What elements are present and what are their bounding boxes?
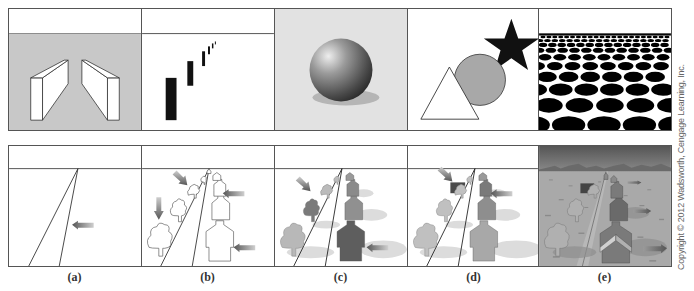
panel-bottom-a	[8, 145, 142, 267]
panel-label-d: (d)	[407, 270, 540, 285]
slanted-blocks-illustration	[9, 9, 141, 130]
outline-scene-illustration	[142, 146, 274, 266]
shaded-scene-illustration	[275, 146, 407, 266]
panel-top-a	[8, 8, 142, 131]
receding-bars-illustration	[142, 9, 274, 130]
occlusion-scene-illustration	[408, 146, 538, 266]
arrow-icon	[154, 197, 164, 220]
arrow-icon	[234, 243, 256, 252]
panel-top-d	[407, 8, 539, 131]
texture-gradient-illustration	[539, 9, 671, 130]
road-illustration	[9, 146, 141, 266]
occlusion-shapes-illustration	[408, 9, 538, 130]
arrow-icon	[72, 221, 94, 230]
panel-label-c: (c)	[274, 270, 407, 285]
panel-bottom-d	[407, 145, 539, 267]
arrow-icon	[173, 171, 188, 186]
panel-label-e: (e)	[538, 270, 671, 285]
panel-label-b: (b)	[141, 270, 274, 285]
shaded-sphere-illustration	[275, 9, 407, 130]
arrow-icon	[296, 176, 311, 191]
panel-label-a: (a)	[8, 270, 141, 285]
panel-bottom-b	[141, 145, 275, 267]
panel-top-c	[274, 8, 408, 131]
panel-top-e	[538, 8, 672, 131]
panel-bottom-c	[274, 145, 408, 267]
panel-bottom-e	[538, 145, 672, 267]
full-scene-illustration	[539, 146, 671, 266]
panel-top-b	[141, 8, 275, 131]
copyright-notice: Copyright © 2012 Wadsworth, Cengage Lear…	[676, 64, 686, 270]
